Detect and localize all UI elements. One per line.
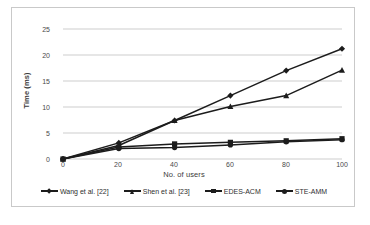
y-tick-15: 15 (22, 78, 50, 85)
data-point (339, 67, 345, 73)
y-tick-10: 10 (22, 104, 50, 111)
x-tick-20: 20 (114, 161, 122, 168)
data-series-layer (60, 46, 345, 162)
data-point (227, 92, 233, 98)
data-point (228, 142, 233, 147)
gridlines (63, 29, 342, 159)
legend-item-ste-amm[interactable]: STE-AMM (276, 187, 327, 195)
chart-legend: Wang et al. [22] Shen et al. [23] EDES-A… (12, 187, 356, 195)
y-tick-0: 0 (22, 156, 50, 163)
data-point (339, 46, 345, 52)
y-tick-5: 5 (22, 130, 50, 137)
legend-item-shen[interactable]: Shen et al. [23] (124, 187, 190, 195)
data-point (283, 68, 289, 74)
legend-marker-square-icon (205, 187, 222, 195)
x-tick-100: 100 (336, 161, 348, 168)
data-point (172, 145, 177, 150)
data-point (116, 146, 121, 151)
legend-label-shen: Shen et al. [23] (143, 188, 190, 195)
data-point (339, 137, 344, 142)
x-tick-60: 60 (226, 161, 234, 168)
legend-item-edes-acm[interactable]: EDES-ACM (205, 187, 261, 195)
plot-area: Time (ms) 0 5 10 15 20 25 (12, 8, 354, 206)
legend-marker-circle-icon (276, 187, 293, 195)
y-tick-20: 20 (22, 52, 50, 59)
x-axis-title: No. of users (12, 170, 356, 179)
x-tick-80: 80 (282, 161, 290, 168)
figure-container: Time (ms) 0 5 10 15 20 25 (0, 0, 370, 225)
legend-label-ste-amm: STE-AMM (295, 188, 327, 195)
x-tick-40: 40 (170, 161, 178, 168)
legend-marker-diamond-icon (41, 187, 58, 195)
legend-label-edes-acm: EDES-ACM (224, 188, 261, 195)
chart-frame: Time (ms) 0 5 10 15 20 25 (11, 7, 355, 207)
x-tick-0: 0 (61, 161, 65, 168)
y-tick-25: 25 (22, 26, 50, 33)
data-point (284, 139, 289, 144)
series-wang-et-al-22 (60, 46, 345, 162)
legend-item-wang[interactable]: Wang et al. [22] (41, 187, 109, 195)
legend-marker-triangle-icon (124, 187, 141, 195)
legend-label-wang: Wang et al. [22] (60, 188, 109, 195)
